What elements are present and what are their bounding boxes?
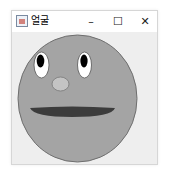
left-eye-pupil — [37, 55, 45, 68]
face-circle — [18, 35, 137, 162]
minimize-button[interactable]: – — [78, 12, 104, 31]
window-title: 얼굴 — [31, 14, 49, 28]
drawing-canvas — [12, 32, 157, 164]
title-bar[interactable]: 얼굴 – ☐ ✕ — [12, 11, 157, 32]
nose — [52, 77, 69, 91]
right-eye-pupil — [80, 55, 87, 68]
app-window: 얼굴 – ☐ ✕ — [11, 10, 158, 165]
face-drawing — [12, 32, 159, 164]
close-button[interactable]: ✕ — [132, 12, 158, 31]
maximize-button[interactable]: ☐ — [105, 12, 131, 31]
java-app-icon[interactable] — [16, 15, 28, 27]
